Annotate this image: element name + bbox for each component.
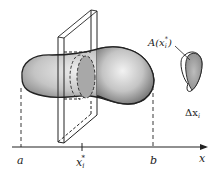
- label-b: b: [150, 154, 157, 167]
- slice-detail: [181, 52, 202, 91]
- label-area: A(xi*): [147, 35, 172, 50]
- label-x: x: [199, 152, 206, 165]
- label-xi-star: xi*: [76, 154, 85, 170]
- volume-slicing-diagram: a b x xi* A(xi*) Δxi: [0, 0, 218, 182]
- label-a: a: [17, 154, 24, 167]
- solid-right-front: [97, 47, 154, 104]
- x-axis-arrow-icon: [200, 144, 208, 150]
- cross-section-front: [77, 56, 95, 98]
- label-delta-x: Δxi: [185, 107, 200, 120]
